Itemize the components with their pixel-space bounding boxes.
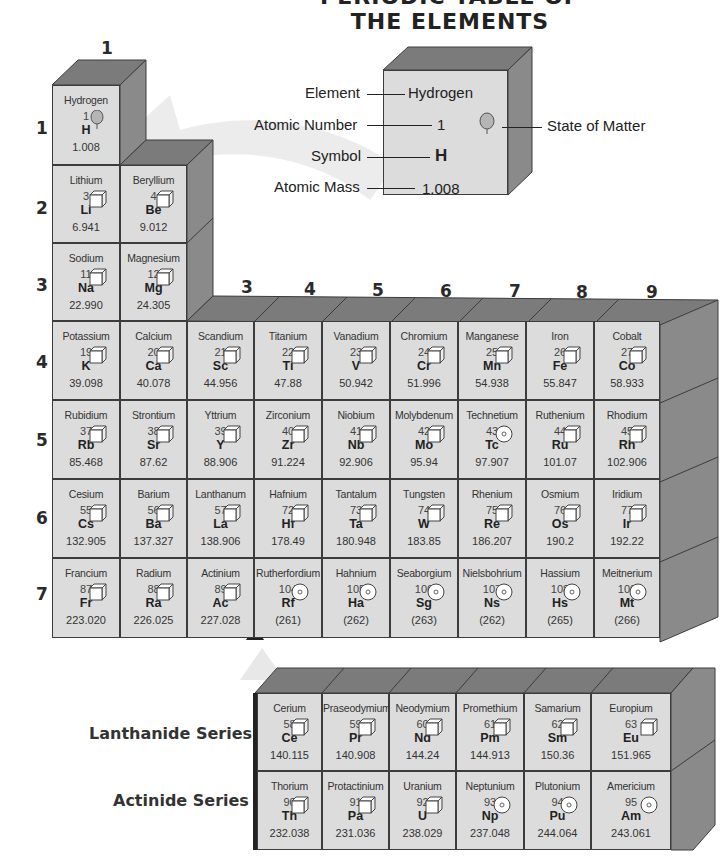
atomic-mass: (262): [323, 614, 389, 626]
element-symbol: Zr: [255, 438, 321, 452]
element-symbol: Ca: [121, 359, 186, 373]
element-cell-pm: Promethium61Pm144.913: [456, 693, 524, 771]
element-cell-v: Vanadium23V50.942: [322, 321, 390, 400]
cube-icon: [89, 190, 107, 208]
element-name: Nielsbohrium: [459, 567, 525, 579]
element-symbol: Pu: [525, 809, 590, 823]
atomic-number: 108: [527, 583, 593, 595]
atomic-number: 59: [323, 718, 388, 730]
state-of-matter: [495, 504, 511, 520]
element-cell-ir: Iridium77Ir192.22: [594, 479, 660, 558]
atomic-mass: 50.942: [323, 377, 389, 389]
element-cell-rf: Rutherfordium104Rf(261): [254, 558, 322, 638]
element-cell-ca: Calcium20Ca40.078: [120, 321, 187, 400]
state-of-matter: [493, 718, 509, 734]
element-cell-fe: Iron26Fe55.847: [526, 321, 594, 400]
element-symbol: Sc: [188, 359, 253, 373]
element-name: Cesium: [53, 488, 119, 500]
element-name: Technetium: [459, 409, 525, 421]
element-cell-pa: Protactinium91Pa231.036: [322, 771, 389, 850]
atomic-number: 3: [53, 190, 119, 202]
atomic-mass: 97.907: [459, 456, 525, 468]
element-cell-pr: Praseodymium59Pr140.908: [322, 693, 389, 771]
atomic-number: 43: [459, 425, 525, 437]
element-symbol: W: [391, 517, 457, 531]
element-symbol: Ha: [323, 596, 389, 610]
key-symbol-line: [367, 157, 430, 158]
state-of-matter: [427, 583, 443, 599]
atomic-mass: 6.941: [53, 221, 119, 233]
cube-icon: [89, 425, 107, 443]
cube-icon: [358, 796, 376, 814]
target-circle-icon: [359, 583, 377, 601]
element-cell-sr: Strontium38Sr87.62: [120, 400, 187, 479]
cube-icon: [563, 504, 581, 522]
element-name: Praseodymium: [323, 702, 388, 714]
element-name: Hydrogen: [53, 94, 119, 106]
cube-icon: [291, 346, 309, 364]
element-name: Molybdenum: [391, 409, 457, 421]
element-symbol: Rf: [255, 596, 321, 610]
key-mass-line: [367, 188, 415, 189]
atomic-mass: 138.906: [188, 535, 253, 547]
element-symbol: Ns: [459, 596, 525, 610]
element-name: Barium: [121, 488, 186, 500]
state-of-matter: [223, 425, 239, 441]
element-cell-hs: Hassium108Hs(265): [526, 558, 594, 638]
element-name: Meitnerium: [595, 567, 659, 579]
cube-icon: [493, 718, 511, 736]
state-of-matter: [495, 583, 511, 599]
cube-icon: [427, 425, 445, 443]
atomic-mass: 55.847: [527, 377, 593, 389]
atomic-number: 76: [527, 504, 593, 516]
state-of-matter: [358, 718, 374, 734]
atomic-number: 25: [459, 346, 525, 358]
element-symbol: La: [188, 517, 253, 531]
state-of-matter: [89, 110, 105, 126]
element-cell-co: Cobalt27Co58.933: [594, 321, 660, 400]
atomic-mass: 92.906: [323, 456, 389, 468]
element-cell-ns: Nielsbohrium107Ns(262): [458, 558, 526, 638]
atomic-mass: (261): [255, 614, 321, 626]
balloon-icon: [478, 112, 496, 136]
element-name: Manganese: [459, 330, 525, 342]
state-of-matter: [156, 268, 172, 284]
cube-icon: [495, 346, 513, 364]
element-cell-np: Neptunium93Np237.048: [456, 771, 524, 850]
state-of-matter: [291, 504, 307, 520]
atomic-number: 72: [255, 504, 321, 516]
element-cell-na: Sodium11Na22.990: [52, 243, 120, 321]
element-name: Titanium: [255, 330, 321, 342]
atomic-number: 57: [188, 504, 253, 516]
atomic-mass: 85.468: [53, 456, 119, 468]
cube-icon: [629, 346, 647, 364]
atomic-mass: 140.908: [323, 749, 388, 761]
atomic-mass: 39.098: [53, 377, 119, 389]
cube-icon: [359, 425, 377, 443]
element-name: Strontium: [121, 409, 186, 421]
element-symbol: Co: [595, 359, 659, 373]
element-name: Rhodium: [595, 409, 659, 421]
state-of-matter: [563, 583, 579, 599]
cube-icon: [156, 346, 174, 364]
atomic-number: 20: [121, 346, 186, 358]
element-symbol: Re: [459, 517, 525, 531]
state-of-matter: [89, 583, 105, 599]
cube-icon: [156, 583, 174, 601]
state-of-matter: [156, 425, 172, 441]
element-cell-la: Lanthanum57La138.906: [187, 479, 254, 558]
cube-icon: [89, 583, 107, 601]
element-name: Hahnium: [323, 567, 389, 579]
element-name: Americium: [592, 780, 670, 792]
state-of-matter: [223, 504, 239, 520]
atomic-mass: (266): [595, 614, 659, 626]
element-name: Magnesium: [121, 252, 186, 264]
cube-icon: [640, 718, 658, 736]
atomic-number: 12: [121, 268, 186, 280]
target-circle-icon: [427, 583, 445, 601]
element-name: Beryllium: [121, 174, 186, 186]
atomic-number: 37: [53, 425, 119, 437]
element-cell-fr: Francium87Fr223.020: [52, 558, 120, 638]
key-state-line: [502, 127, 542, 128]
atomic-mass: 95.94: [391, 456, 457, 468]
